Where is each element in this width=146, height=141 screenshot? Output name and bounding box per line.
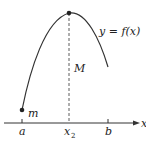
max-value-label: M — [73, 62, 86, 75]
tick-label-x2: x — [64, 125, 71, 138]
min-point — [20, 108, 25, 113]
diagram: x y = f(x) M m a x 2 b — [0, 0, 146, 141]
max-point — [67, 11, 72, 16]
function-curve — [22, 13, 108, 110]
min-value-label: m — [28, 107, 38, 120]
tick-label-a: a — [19, 125, 26, 138]
tick-label-b: b — [105, 125, 112, 138]
tick-label-x2-subscript: 2 — [71, 132, 75, 140]
curve-label: y = f(x) — [98, 25, 140, 38]
x-axis-label: x — [141, 117, 146, 130]
x-axis-arrow-icon — [133, 121, 140, 126]
